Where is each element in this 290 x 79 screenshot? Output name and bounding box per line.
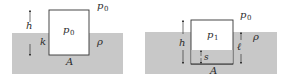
label-k: k (40, 36, 46, 47)
label-inner-pressure-sub: 0 (70, 29, 74, 37)
right-panel: h s p 1 p 0 ℓ ρ A (145, 9, 277, 76)
label-outer-pressure-sub: 0 (104, 5, 108, 13)
label-inner-pressure: p (207, 29, 214, 40)
label-h: h (179, 37, 185, 48)
left-panel: h k p 0 p 0 ρ A (12, 0, 123, 74)
label-inner-pressure-sub: 1 (214, 34, 218, 42)
label-h: h (26, 20, 32, 31)
label-area: A (65, 56, 73, 67)
label-outer-pressure-sub: 0 (247, 14, 251, 22)
label-s: s (204, 52, 209, 62)
label-outer-pressure: p (97, 0, 104, 11)
label-area: A (209, 65, 217, 76)
label-density: ρ (96, 36, 103, 47)
label-inner-pressure: p (63, 24, 70, 35)
label-ell: ℓ (237, 41, 241, 52)
label-outer-pressure: p (240, 9, 247, 20)
inner-fluid (192, 50, 233, 64)
label-density: ρ (252, 31, 259, 42)
buoyancy-diagram: h k p 0 p 0 ρ A h s p 1 p 0 ℓ ρ A (0, 0, 290, 79)
